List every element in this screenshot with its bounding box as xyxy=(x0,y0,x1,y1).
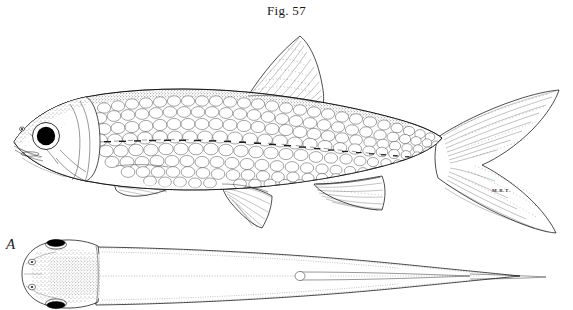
caudal-fin xyxy=(435,90,559,233)
panel-a-body xyxy=(93,247,520,305)
panel-a-group xyxy=(22,240,546,309)
panel-label-a: A xyxy=(6,236,15,253)
artist-signature: M.B.T. xyxy=(492,188,510,193)
head-group xyxy=(14,97,100,181)
main-fish-group xyxy=(14,36,559,233)
nostril xyxy=(19,127,24,131)
anal-fin xyxy=(314,176,385,210)
eye xyxy=(33,123,60,150)
fish-illustration-svg xyxy=(0,0,573,310)
panel-a-head xyxy=(22,240,100,309)
illustration-plate: Fig. 57 A M.B.T. xyxy=(0,0,573,310)
figure-caption: Fig. 57 xyxy=(0,3,573,19)
